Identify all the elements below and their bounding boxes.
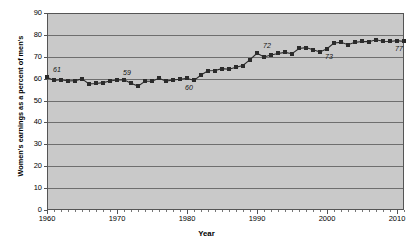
data-point-label: 60 (185, 84, 193, 92)
data-point-label: 59 (123, 69, 131, 77)
data-point-marker (66, 79, 70, 83)
data-point-marker (129, 81, 133, 85)
data-point-marker (185, 76, 189, 80)
data-point-marker (45, 75, 49, 79)
data-point-label: 72 (263, 42, 271, 50)
data-point-marker (353, 40, 357, 44)
data-point-marker (164, 79, 168, 83)
data-point-marker (80, 77, 84, 81)
data-point-marker (395, 39, 399, 43)
data-point-label: 77 (395, 45, 403, 53)
data-point-marker (171, 78, 175, 82)
data-point-marker (199, 73, 203, 77)
data-point-marker (388, 39, 392, 43)
data-point-marker (150, 79, 154, 83)
data-point-marker (276, 51, 280, 55)
data-point-marker (213, 69, 217, 73)
data-point-marker (87, 82, 91, 86)
data-point-marker (192, 78, 196, 82)
data-point-marker (101, 81, 105, 85)
data-point-marker (52, 78, 56, 82)
data-point-marker (367, 40, 371, 44)
data-point-marker (241, 64, 245, 68)
data-point-marker (227, 67, 231, 71)
data-point-marker (157, 76, 161, 80)
data-point-marker (108, 79, 112, 83)
data-point-marker (206, 69, 210, 73)
x-axis-title: Year (0, 229, 413, 238)
data-point-marker (248, 58, 252, 62)
chart-container: Women's earnings as a percent of men's 0… (0, 0, 413, 246)
data-point-marker (94, 81, 98, 85)
data-point-marker (59, 78, 63, 82)
data-point-marker (346, 43, 350, 47)
data-point-marker (402, 39, 406, 43)
data-point-marker (374, 38, 378, 42)
data-point-marker (122, 78, 126, 82)
data-point-marker (143, 79, 147, 83)
data-point-label: 73 (325, 53, 333, 61)
data-point-marker (339, 40, 343, 44)
data-point-marker (290, 52, 294, 56)
series-path (47, 40, 404, 86)
data-point-label: 61 (53, 66, 61, 74)
data-point-marker (255, 51, 259, 55)
data-point-marker (311, 48, 315, 52)
data-point-marker (283, 50, 287, 54)
data-point-marker (269, 53, 273, 57)
data-point-marker (220, 67, 224, 71)
data-point-marker (318, 50, 322, 54)
data-point-marker (73, 79, 77, 83)
data-point-marker (115, 78, 119, 82)
series-line (0, 0, 413, 246)
data-point-marker (297, 46, 301, 50)
data-point-marker (136, 84, 140, 88)
data-point-marker (360, 39, 364, 43)
data-point-marker (381, 39, 385, 43)
data-point-marker (234, 65, 238, 69)
data-point-marker (178, 77, 182, 81)
data-point-marker (304, 46, 308, 50)
data-point-marker (332, 41, 336, 45)
data-point-marker (325, 47, 329, 51)
data-point-marker (262, 55, 266, 59)
